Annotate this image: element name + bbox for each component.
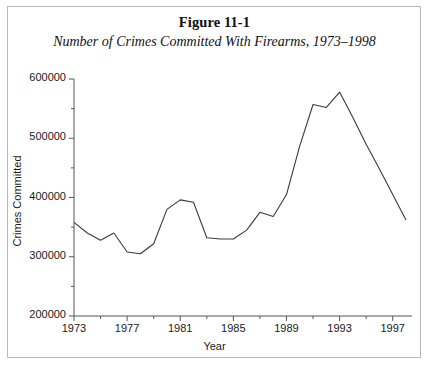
- figure-container: Figure 11-1 Number of Crimes Committed W…: [0, 0, 429, 366]
- y-tick-label: 600000: [8, 71, 66, 83]
- axes: [74, 79, 412, 316]
- x-tick-label: 1997: [370, 322, 416, 334]
- x-axis-ticks: [74, 316, 393, 321]
- data-series-line: [74, 92, 406, 254]
- y-tick-label: 200000: [8, 308, 66, 320]
- x-tick-label: 1973: [51, 322, 97, 334]
- x-tick-label: 1989: [263, 322, 309, 334]
- plot-area: 200000300000400000500000600000 197319771…: [0, 0, 429, 366]
- x-tick-label: 1985: [210, 322, 256, 334]
- x-tick-label: 1977: [104, 322, 150, 334]
- x-tick-label: 1981: [157, 322, 203, 334]
- x-tick-label: 1993: [317, 322, 363, 334]
- y-axis-ticks: [69, 79, 74, 316]
- y-axis-title: Crimes Committed: [11, 141, 23, 261]
- x-axis-title: Year: [0, 340, 429, 352]
